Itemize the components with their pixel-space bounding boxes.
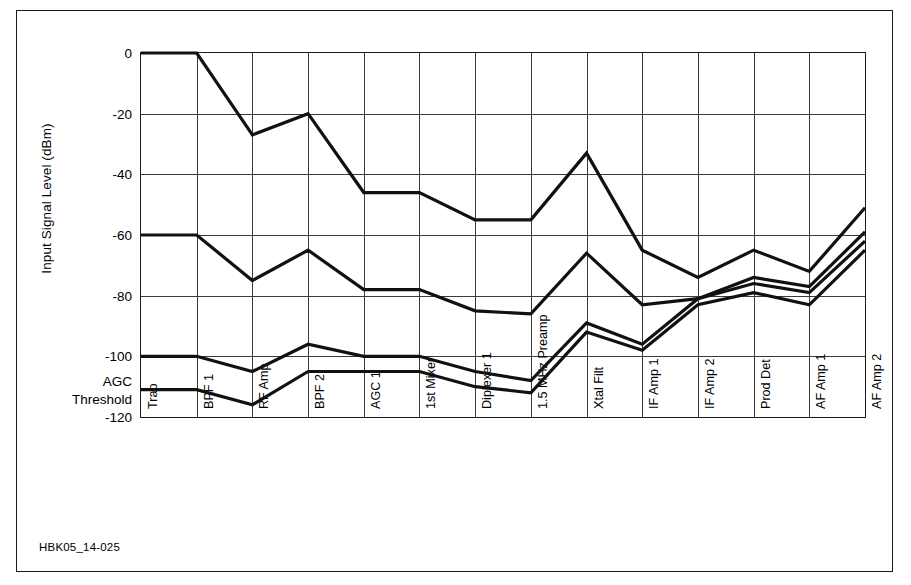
y-tick-label: -60: [112, 228, 132, 243]
series-line: [141, 250, 865, 405]
series-line: [141, 53, 865, 277]
x-tick-label: AF Amp 2: [870, 354, 884, 417]
figure-panel: Input Signal Level (dBm) 0-20-40-60-80-1…: [16, 10, 893, 572]
series-lines: [141, 53, 865, 417]
y-axis-title: Input Signal Level (dBm): [39, 49, 54, 349]
y-tick-label: -20: [112, 106, 132, 121]
y-tick-label: -100: [105, 349, 132, 364]
agc-threshold-label-2: Threshold: [72, 391, 132, 406]
series-line: [141, 232, 865, 314]
y-tick-label: -80: [112, 288, 132, 303]
y-tick-label: -40: [112, 167, 132, 182]
y-tick-label: 0: [124, 46, 132, 61]
agc-threshold-label-1: AGC: [103, 373, 132, 388]
plot-area: 0-20-40-60-80-100-120 AGCThreshold TrapB…: [140, 52, 866, 418]
figure-caption: HBK05_14-025: [39, 541, 120, 553]
y-tick-label: -120: [105, 410, 132, 425]
